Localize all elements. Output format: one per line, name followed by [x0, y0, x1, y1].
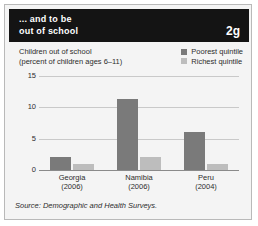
- gridline-15: [39, 76, 239, 77]
- chart-title: Children out of school (percent of child…: [19, 47, 122, 66]
- x-axis-label-namibia: Namibia (2006): [104, 173, 174, 191]
- legend-item-0: Poorest quintile: [181, 47, 243, 57]
- y-axis-tick-label: 15: [4, 71, 36, 80]
- x-axis-label-georgia: Georgia (2006): [37, 173, 107, 191]
- bar-peru-richest: [207, 164, 228, 170]
- figure-panel: ... and to be out of school 2g Children …: [4, 4, 252, 220]
- bar-georgia-richest: [73, 164, 94, 170]
- bar-group-namibia: [117, 99, 161, 170]
- x-axis-label-peru: Peru (2004): [171, 173, 241, 191]
- bar-namibia-poorest: [117, 99, 138, 170]
- legend-label: Poorest quintile: [191, 47, 243, 57]
- bar-georgia-poorest: [50, 157, 71, 170]
- bar-peru-poorest: [184, 132, 205, 170]
- chart-panel: Children out of school (percent of child…: [9, 43, 249, 193]
- legend-swatch-icon: [181, 49, 187, 55]
- y-axis-tick-label: 10: [4, 102, 36, 111]
- page-title: ... and to be out of school: [19, 13, 179, 37]
- bar-namibia-richest: [140, 157, 161, 170]
- plot-area: 051015Georgia (2006)Namibia (2006)Peru (…: [39, 76, 239, 170]
- x-axis-line: [39, 170, 239, 171]
- y-axis-tick-label: 5: [4, 134, 36, 143]
- bar-group-peru: [184, 132, 228, 170]
- figure-number-badge: 2g: [226, 24, 240, 38]
- chart-legend: Poorest quintileRichest quintile: [181, 47, 243, 66]
- source-note: Source: Demographic and Health Surveys.: [15, 201, 157, 210]
- legend-item-1: Richest quintile: [181, 57, 243, 67]
- legend-label: Richest quintile: [191, 57, 242, 67]
- figure-header: ... and to be out of school 2g: [9, 9, 249, 42]
- legend-swatch-icon: [181, 58, 187, 64]
- y-axis-tick-label: 0: [4, 165, 36, 174]
- bar-group-georgia: [50, 157, 94, 170]
